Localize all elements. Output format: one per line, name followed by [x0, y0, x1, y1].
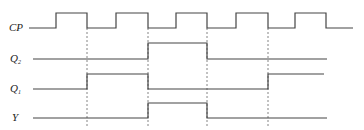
signal-cp: CP	[9, 13, 353, 33]
signal-y: Y	[12, 103, 327, 123]
waveform-cp	[29, 13, 353, 28]
waveform-q2	[33, 43, 327, 59]
signal-label-q1: Q1	[10, 82, 21, 95]
waveform-q1	[33, 74, 324, 89]
signal-q1: Q1	[10, 74, 324, 95]
timing-diagram: CP Q2 Q1 Y	[0, 0, 364, 130]
waveform-y	[33, 103, 327, 118]
signal-label-cp: CP	[9, 21, 23, 33]
signal-label-y: Y	[12, 111, 20, 123]
signal-label-q2: Q2	[10, 52, 21, 65]
signal-q2: Q2	[10, 43, 327, 65]
